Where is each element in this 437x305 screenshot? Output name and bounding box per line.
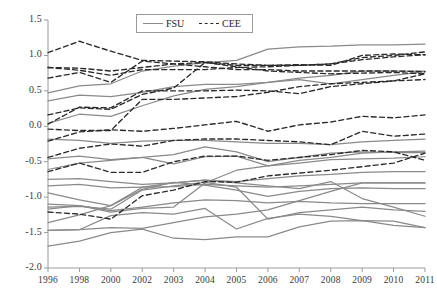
y-axis-tick-label: -1.5 [8,226,42,237]
series-layer [48,41,425,246]
y-axis-tick-label: -0.5 [8,155,42,166]
legend-swatch-solid-icon [143,23,163,24]
legend-label: FSU [166,19,184,29]
series-line-cee-8 [48,115,425,141]
y-axis-tick-label: 0.5 [8,84,42,95]
legend-item-cee[interactable]: CEE [199,15,241,32]
legend-swatch-dashed-icon [199,23,219,24]
legend-item-fsu[interactable]: FSU [143,15,184,32]
series-line-fsu-5 [48,147,425,162]
x-axis-tick-label: 2011 [405,275,437,285]
series-line-fsu-14 [48,208,425,230]
axis-layer [44,20,425,272]
series-line-fsu-1 [48,44,425,93]
y-axis-tick-label: 1.0 [8,48,42,59]
plot-area [0,0,437,305]
series-line-fsu-13 [48,180,425,223]
series-line-fsu-3 [48,72,425,124]
legend-label: CEE [222,19,241,29]
series-line-fsu-4 [48,139,425,145]
y-axis-tick-label: 1.5 [8,13,42,24]
series-line-fsu-6 [48,156,425,169]
series-line-cee-2 [48,54,425,71]
y-axis-tick-label: -2.0 [8,261,42,272]
series-line-fsu-16 [48,221,425,247]
y-axis-tick-label: -1.0 [8,190,42,201]
chart-legend: FSUCEE [136,14,253,33]
line-chart: 1.51.00.50.0-0.5-1.0-1.5-2.0 19961998200… [0,0,437,305]
y-axis-tick-label: 0.0 [8,119,42,130]
